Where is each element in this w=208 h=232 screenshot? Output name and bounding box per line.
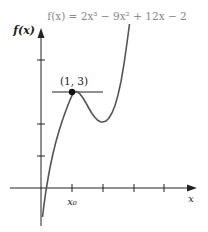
axes: [10, 28, 197, 226]
tangent-point: [69, 89, 75, 95]
equation-label: f(x) = 2x³ − 9x² + 12x − 2: [47, 10, 186, 22]
y-axis-label: f(x): [12, 24, 35, 37]
point-label: (1, 3): [60, 75, 88, 87]
x-axis-arrow-icon: [187, 185, 197, 192]
function-graph: f(x) = 2x³ − 9x² + 12x − 2 f(x) (1, 3) x…: [0, 0, 208, 232]
x-axis-label: x: [188, 193, 194, 204]
y-axis-arrow-icon: [38, 28, 45, 38]
x-tick-label: x₀: [67, 196, 77, 207]
